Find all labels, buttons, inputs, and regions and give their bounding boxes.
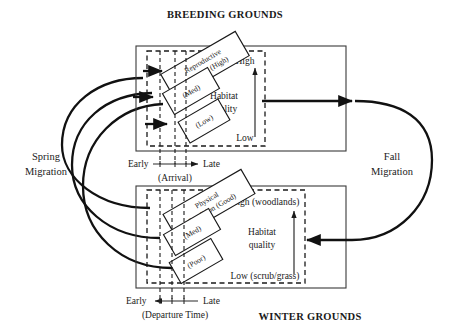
fall-migration-label-line2: Migration	[371, 166, 414, 177]
winter-panel: High (woodlands) Low (scrub/grass) Habit…	[126, 169, 352, 321]
winter-quality-axis-line2: quality	[249, 240, 276, 250]
figure-container: BREEDING GROUNDS WINTER GROUNDS Spring M…	[0, 0, 451, 335]
breeding-x-axis-early-label: Early	[128, 159, 149, 169]
breeding-panel: High Low Habitat quality Reproductive Su…	[128, 31, 352, 184]
breeding-x-axis-caption: (Arrival)	[158, 173, 192, 184]
spring-migration-curves	[62, 78, 172, 268]
migration-diagram-svg: BREEDING GROUNDS WINTER GROUNDS Spring M…	[0, 0, 451, 335]
winter-x-axis-caption: (Departure Time)	[142, 310, 208, 321]
winter-grounds-title: WINTER GROUNDS	[258, 311, 361, 322]
spring-migration-label-line2: Migration	[25, 166, 68, 177]
winter-quality-axis-line1: Habitat	[248, 227, 276, 237]
breeding-quality-low-label: Low	[236, 133, 254, 143]
spring-migration-label-line1: Spring	[32, 151, 61, 162]
winter-x-axis-late-label: Late	[203, 296, 220, 306]
winter-x-axis-early-label: Early	[126, 296, 147, 306]
fall-migration-label-line1: Fall	[384, 151, 400, 162]
winter-quality-low-label: Low (scrub/grass)	[231, 271, 300, 282]
breeding-grounds-title: BREEDING GROUNDS	[167, 9, 283, 20]
breeding-x-axis-late-label: Late	[203, 159, 220, 169]
breeding-quality-axis-line1: Habitat	[210, 91, 238, 101]
